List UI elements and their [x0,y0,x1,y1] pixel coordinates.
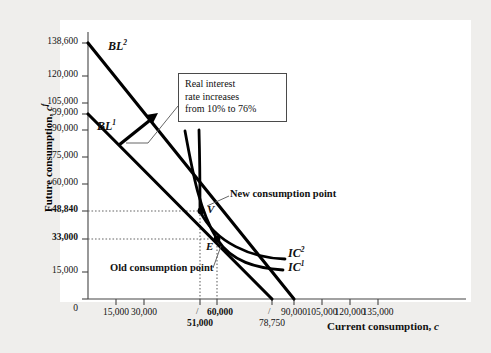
x-tick-78750-connector: / [268,306,271,316]
y-tick-120000: 120,000 [24,69,78,79]
y-tick-48840: 48,840 [24,204,78,214]
y-tick-138600: 138,600 [24,36,78,46]
x-axis-ticks [116,299,378,305]
budget-line-1-label: BL1 [97,118,116,134]
indifference-curve-1-label: IC1 [288,259,304,275]
x-tick-51000: 51,000 [176,318,224,328]
figure: Future consumption, cf Current consumpti… [0,0,491,353]
x-tick-51000-connector: / [196,306,199,316]
point-label-e: E [206,240,213,252]
y-tick-0: 0 [24,303,78,313]
x-axis-title-var: c [434,320,439,332]
old-consumption-point-note: Old consumption point [110,262,213,273]
bl1-text: BL [97,119,112,133]
y-tick-60000: 60,000 [24,177,78,187]
callout-line-3: from 10% to 76% [185,103,281,116]
x-tick-60000: 60,000 [196,307,244,317]
y-tick-33000: 33,000 [24,232,78,242]
y-tick-99000: 99,000 [24,107,78,117]
x-axis-title-text: Current consumption, [327,320,434,332]
ic1-sup: 1 [301,259,305,268]
ic2-sup: 2 [301,245,305,254]
y-tick-90000: 90,000 [24,123,78,133]
x-tick-78750: 78,750 [248,318,296,328]
x-axis-title: Current consumption, c [327,320,439,332]
callout-line-2: rate increases [185,91,281,104]
y-tick-15000: 15,000 [24,265,78,275]
bl2-sup: 2 [123,38,127,47]
point-marker-v [198,208,205,215]
y-axis-ticks [82,43,88,299]
y-tick-75000: 75,000 [24,150,78,160]
new-consumption-point-note: New consumption point [230,188,336,199]
point-marker-e [214,236,221,243]
y-tick-105000: 105,000 [24,96,78,106]
callout-box: Real interest rate increases from 10% to… [178,73,287,122]
point-label-v: V [207,203,214,215]
ic2-text: IC [288,246,301,260]
x-tick-135000: 135,000 [354,307,402,317]
callout-line-1: Real interest [185,78,281,91]
shift-arrow-icon [119,113,158,145]
bl2-text: BL [108,39,123,53]
x-tick-30000: 30,000 [120,307,168,317]
budget-line-2-label: BL2 [108,38,127,54]
bl1-sup: 1 [112,118,116,127]
ic1-text: IC [288,260,301,274]
